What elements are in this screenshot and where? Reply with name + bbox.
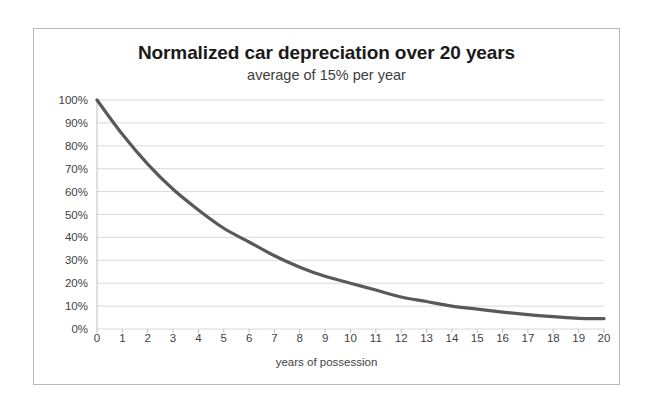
x-tick-label: 0 xyxy=(94,332,100,344)
x-tick-label: 20 xyxy=(598,332,611,344)
x-tick-label: 9 xyxy=(322,332,328,344)
x-tick-label: 14 xyxy=(445,332,458,344)
x-tick-label: 17 xyxy=(522,332,535,344)
x-tick-label: 7 xyxy=(271,332,277,344)
x-tick-label: 12 xyxy=(395,332,408,344)
y-tick-label: 30% xyxy=(65,254,88,266)
x-tick-label: 11 xyxy=(370,332,382,344)
x-tick-label: 10 xyxy=(344,332,357,344)
y-tick-label: 100% xyxy=(59,94,88,106)
y-tick-label: 0% xyxy=(71,323,88,335)
x-tick-label: 13 xyxy=(420,332,433,344)
y-tick-label: 80% xyxy=(65,140,88,152)
y-tick-label: 20% xyxy=(65,277,88,289)
x-tick-label: 6 xyxy=(246,332,252,344)
depreciation-curve xyxy=(97,100,604,319)
y-tick-label: 10% xyxy=(65,300,88,312)
x-tick-label: 1 xyxy=(119,332,125,344)
x-tick-label: 18 xyxy=(547,332,560,344)
x-axis-title: years of possession xyxy=(34,356,619,368)
x-tick-label: 5 xyxy=(221,332,227,344)
y-tick-label: 50% xyxy=(65,209,88,221)
x-tick-label: 4 xyxy=(195,332,201,344)
chart-title: Normalized car depreciation over 20 year… xyxy=(34,42,619,64)
y-tick-label: 70% xyxy=(65,163,88,175)
screenshot-root: Normalized car depreciation over 20 year… xyxy=(0,0,651,411)
x-tick-label: 16 xyxy=(496,332,509,344)
chart-card: Normalized car depreciation over 20 year… xyxy=(33,28,620,385)
x-tick-label: 19 xyxy=(572,332,585,344)
y-tick-label: 40% xyxy=(65,231,88,243)
y-tick-label: 90% xyxy=(65,117,88,129)
x-tick-label: 15 xyxy=(471,332,484,344)
y-axis-tick-labels: 0%10%20%30%40%50%60%70%80%90%100% xyxy=(34,100,93,329)
x-tick-label: 8 xyxy=(297,332,303,344)
x-tick-label: 3 xyxy=(170,332,176,344)
gridlines xyxy=(97,100,604,329)
x-axis-tick-labels: 01234567891011121314151617181920 xyxy=(97,332,604,352)
x-tick-label: 2 xyxy=(144,332,150,344)
y-tick-label: 60% xyxy=(65,186,88,198)
plot-area xyxy=(97,100,604,329)
chart-plot-svg xyxy=(97,100,604,329)
chart-subtitle: average of 15% per year xyxy=(34,67,619,83)
